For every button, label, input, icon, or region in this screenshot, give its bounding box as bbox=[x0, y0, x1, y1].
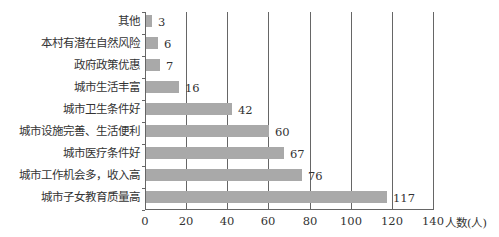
x-tick-label: 20 bbox=[166, 214, 206, 228]
value-label: 3 bbox=[158, 15, 165, 29]
category-label: 城市医疗条件好 bbox=[63, 146, 140, 160]
y-tick bbox=[142, 12, 145, 13]
value-label: 117 bbox=[393, 191, 415, 205]
bar bbox=[146, 103, 232, 115]
gridline bbox=[392, 12, 393, 210]
x-tick-label: 100 bbox=[331, 214, 371, 228]
bar bbox=[146, 169, 302, 181]
category-label: 本村有潜在自然风险 bbox=[41, 36, 140, 50]
bar bbox=[146, 81, 179, 93]
value-label: 76 bbox=[308, 169, 323, 183]
value-label: 67 bbox=[290, 147, 305, 161]
value-label: 42 bbox=[238, 103, 253, 117]
y-tick bbox=[142, 56, 145, 57]
x-tick-label: 80 bbox=[290, 214, 330, 228]
gridline bbox=[351, 12, 352, 210]
x-axis-label: 人数(人) bbox=[445, 214, 487, 230]
bar bbox=[146, 37, 158, 49]
x-tick-label: 40 bbox=[207, 214, 247, 228]
y-tick bbox=[142, 144, 145, 145]
x-axis-line bbox=[145, 209, 434, 210]
value-label: 16 bbox=[185, 81, 200, 95]
horizontal-bar-chart: 020406080100120140人数(人)其他3本村有潜在自然风险6政府政策… bbox=[0, 0, 499, 237]
y-tick bbox=[142, 210, 145, 211]
bar bbox=[146, 191, 387, 203]
bar bbox=[146, 59, 160, 71]
value-label: 6 bbox=[164, 37, 171, 51]
y-tick bbox=[142, 100, 145, 101]
x-tick-label: 120 bbox=[372, 214, 412, 228]
y-tick bbox=[142, 166, 145, 167]
y-tick bbox=[142, 188, 145, 189]
category-label: 其他 bbox=[118, 14, 140, 28]
category-label: 城市生活丰富 bbox=[74, 80, 140, 94]
category-label: 城市工作机会多，收入高 bbox=[19, 168, 140, 182]
value-label: 7 bbox=[166, 59, 173, 73]
bar bbox=[146, 125, 269, 137]
x-tick-label: 60 bbox=[248, 214, 288, 228]
y-tick bbox=[142, 78, 145, 79]
value-label: 60 bbox=[275, 125, 290, 139]
y-tick bbox=[142, 34, 145, 35]
category-label: 城市子女教育质量高 bbox=[41, 190, 140, 204]
gridline bbox=[433, 12, 434, 210]
bar bbox=[146, 147, 284, 159]
category-label: 政府政策优惠 bbox=[74, 58, 140, 72]
y-tick bbox=[142, 122, 145, 123]
category-label: 城市卫生条件好 bbox=[63, 102, 140, 116]
category-label: 城市设施完善、生活便利 bbox=[19, 124, 140, 138]
bar bbox=[146, 15, 152, 27]
x-tick-label: 0 bbox=[125, 214, 165, 228]
